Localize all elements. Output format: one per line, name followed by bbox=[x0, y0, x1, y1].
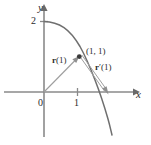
position-vector-shaft bbox=[44, 61, 75, 93]
position-vector-argument: (1) bbox=[56, 55, 67, 65]
tangent-vector-argument: ′(1) bbox=[99, 62, 111, 72]
plot-canvas bbox=[0, 0, 151, 145]
x-tick-label-1: 1 bbox=[74, 98, 79, 108]
tangent-vector-shaft-b bbox=[82, 55, 107, 90]
position-vector-label: r(1) bbox=[52, 56, 67, 65]
point-marker bbox=[77, 54, 82, 59]
y-axis-label: y bbox=[38, 2, 43, 13]
parabola-curve bbox=[44, 22, 112, 136]
math-figure: y x 2 1 0 r(1) r′(1) (1, 1) bbox=[0, 0, 151, 145]
y-tick-label-2: 2 bbox=[31, 16, 36, 26]
point-coordinate-label: (1, 1) bbox=[86, 47, 106, 56]
x-axis-label: x bbox=[136, 89, 141, 100]
origin-label: 0 bbox=[38, 98, 43, 108]
tangent-vector-arrowhead bbox=[102, 86, 108, 94]
tangent-vector-label: r′(1) bbox=[95, 63, 111, 72]
